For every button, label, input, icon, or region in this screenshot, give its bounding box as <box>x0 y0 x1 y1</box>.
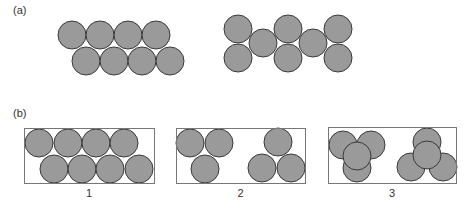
disc <box>82 129 110 157</box>
disc <box>156 47 184 75</box>
disc <box>274 15 302 43</box>
disc <box>128 47 156 75</box>
disc <box>224 44 252 72</box>
disc <box>274 44 302 72</box>
disc <box>100 47 128 75</box>
disc <box>413 141 441 169</box>
disc <box>343 142 371 170</box>
packing-diagram: (a) (b) 123 <box>0 0 469 209</box>
disc <box>248 154 276 182</box>
arrangement-zigzag <box>224 15 352 72</box>
disc <box>299 29 327 57</box>
disc <box>114 21 142 49</box>
disc <box>110 129 138 157</box>
disc <box>54 129 82 157</box>
disc <box>68 155 96 183</box>
disc <box>324 44 352 72</box>
box-caption: 1 <box>86 187 92 199</box>
disc <box>191 155 219 183</box>
disc <box>72 47 100 75</box>
disc <box>86 21 114 49</box>
panel-a-label: (a) <box>13 4 26 16</box>
arrangement-offset-rows <box>58 21 184 75</box>
disc <box>142 21 170 49</box>
disc <box>249 29 277 57</box>
panel-b-label: (b) <box>13 107 26 119</box>
box-2: 2 <box>176 128 306 199</box>
disc <box>40 155 68 183</box>
disc <box>96 155 124 183</box>
disc <box>224 15 252 43</box>
disc <box>277 154 305 182</box>
box-3: 3 <box>329 128 458 200</box>
disc <box>324 15 352 43</box>
disc <box>176 129 204 157</box>
disc <box>125 155 153 183</box>
panel-a <box>58 15 352 75</box>
box-1: 1 <box>25 129 155 200</box>
panel-b: 123 <box>25 128 458 200</box>
disc <box>25 129 53 157</box>
box-caption: 2 <box>237 187 243 199</box>
disc <box>264 128 292 156</box>
disc <box>58 21 86 49</box>
box-caption: 3 <box>389 187 395 199</box>
disc <box>205 129 233 157</box>
